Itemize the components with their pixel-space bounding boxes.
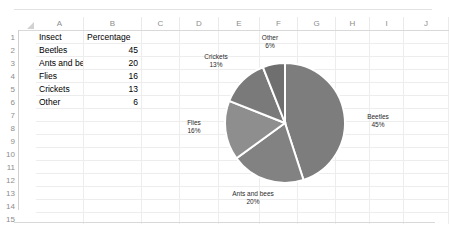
cell-A3-label[interactable]: Ants and bees xyxy=(36,57,84,70)
cell-B9[interactable] xyxy=(84,135,142,148)
pie-chart[interactable]: Crickets 13% Other 6% Beetles 45% Flies … xyxy=(168,20,449,210)
pie-label-beetles-percent: 45% xyxy=(354,121,402,129)
pie-label-crickets: Crickets 13% xyxy=(190,53,242,69)
pie-label-other-percent: 6% xyxy=(248,42,292,50)
cell-B6-value[interactable]: 6 xyxy=(84,96,142,109)
cell-A11[interactable] xyxy=(36,161,84,174)
pie-label-ants-and-bees-name: Ants and bees xyxy=(214,190,292,198)
row-header-2[interactable]: 2 xyxy=(0,44,18,57)
cell-A9[interactable] xyxy=(36,135,84,148)
cell-A6-label[interactable]: Other xyxy=(36,96,84,109)
row-header-13[interactable]: 13 xyxy=(0,187,18,200)
column-header-a[interactable]: A xyxy=(36,17,84,30)
pie-label-other: Other 6% xyxy=(248,34,292,50)
cell-B10[interactable] xyxy=(84,148,142,161)
pie-label-ants-and-bees-percent: 20% xyxy=(214,198,292,206)
row-header-10[interactable]: 10 xyxy=(0,148,18,161)
row-header-8[interactable]: 8 xyxy=(0,122,18,135)
pie-label-crickets-percent: 13% xyxy=(190,61,242,69)
row-header-9[interactable]: 9 xyxy=(0,135,18,148)
pie-chart-svg xyxy=(168,20,449,210)
pie-label-other-name: Other xyxy=(248,34,292,42)
cell-A1-insect-header[interactable]: Insect xyxy=(36,31,84,44)
cell-B11[interactable] xyxy=(84,161,142,174)
cell-A8[interactable] xyxy=(36,122,84,135)
column-header-b[interactable]: B xyxy=(84,17,142,30)
cell-A4-label[interactable]: Flies xyxy=(36,70,84,83)
pie-label-flies-percent: 16% xyxy=(174,127,214,135)
cell-A14[interactable] xyxy=(36,200,84,213)
cell-B4-value[interactable]: 16 xyxy=(84,70,142,83)
cell-B8[interactable] xyxy=(84,122,142,135)
cell-A13[interactable] xyxy=(36,187,84,200)
cell-B3-value[interactable]: 20 xyxy=(84,57,142,70)
pie-label-beetles: Beetles 45% xyxy=(354,113,402,129)
row-header-12[interactable]: 12 xyxy=(0,174,18,187)
pie-label-flies-name: Flies xyxy=(174,119,214,127)
row-header-6[interactable]: 6 xyxy=(0,96,18,109)
cell-B7[interactable] xyxy=(84,109,142,122)
spreadsheet-window: ABCDEFGHIJ 123456789101112131415 InsectP… xyxy=(0,0,449,236)
cell-B13[interactable] xyxy=(84,187,142,200)
row-header-4[interactable]: 4 xyxy=(0,70,18,83)
row-header-11[interactable]: 11 xyxy=(0,161,18,174)
row-header-divider xyxy=(18,30,19,210)
cell-B14[interactable] xyxy=(84,200,142,213)
cell-A5-label[interactable]: Crickets xyxy=(36,83,84,96)
cell-A7[interactable] xyxy=(36,109,84,122)
scrollbar-divider xyxy=(14,222,435,223)
cell-A2-label[interactable]: Beetles xyxy=(36,44,84,57)
cell-A10[interactable] xyxy=(36,148,84,161)
row-header-5[interactable]: 5 xyxy=(0,83,18,96)
pie-label-ants-and-bees: Ants and bees 20% xyxy=(214,190,292,206)
cell-B12[interactable] xyxy=(84,174,142,187)
cell-B1-percentage-header[interactable]: Percentage xyxy=(84,31,142,44)
top-divider xyxy=(14,9,432,10)
pie-slice-group xyxy=(225,63,345,183)
pie-label-beetles-name: Beetles xyxy=(354,113,402,121)
row-header-14[interactable]: 14 xyxy=(0,200,18,213)
row-header-7[interactable]: 7 xyxy=(0,109,18,122)
cell-B2-value[interactable]: 45 xyxy=(84,44,142,57)
row-header-1[interactable]: 1 xyxy=(0,31,18,44)
pie-label-flies: Flies 16% xyxy=(174,119,214,135)
pie-label-crickets-name: Crickets xyxy=(190,53,242,61)
cell-B5-value[interactable]: 13 xyxy=(84,83,142,96)
horizontal-scrollbar-track[interactable] xyxy=(0,224,449,231)
cell-A12[interactable] xyxy=(36,174,84,187)
row-header-3[interactable]: 3 xyxy=(0,57,18,70)
